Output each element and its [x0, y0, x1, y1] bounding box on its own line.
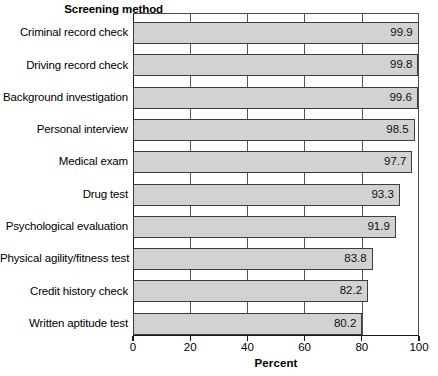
- bar-value-label: 99.9: [390, 27, 412, 39]
- bar: 91.9: [133, 216, 396, 238]
- x-axis-tick-label: 0: [130, 342, 136, 354]
- bar-row: 98.5: [133, 110, 419, 142]
- x-axis-tick-label: 100: [409, 342, 428, 354]
- bar-value-label: 99.8: [390, 60, 412, 72]
- y-axis-category-labels: Criminal record checkDriving record chec…: [0, 13, 128, 336]
- bar: 99.9: [133, 22, 419, 44]
- x-axis-title: Percent: [133, 357, 419, 369]
- bar-row: 83.8: [133, 239, 419, 271]
- bar-value-label: 83.8: [344, 253, 366, 265]
- bar: 83.8: [133, 248, 373, 270]
- category-label: Driving record check: [0, 60, 128, 72]
- bar: 99.8: [133, 54, 418, 76]
- bar: 80.2: [133, 313, 362, 335]
- category-label: Physical agility/fitness test: [0, 253, 128, 265]
- category-label: Background investigation: [0, 92, 128, 104]
- bar-row: 93.3: [133, 175, 419, 207]
- category-label: Medical exam: [0, 156, 128, 168]
- bar-row: 80.2: [133, 304, 419, 336]
- bar-value-label: 82.2: [340, 286, 362, 298]
- category-label: Criminal record check: [0, 27, 128, 39]
- category-label: Personal interview: [0, 124, 128, 136]
- bar-value-label: 99.6: [389, 92, 411, 104]
- bar-value-label: 93.3: [371, 189, 393, 201]
- category-label: Written aptitude test: [0, 318, 128, 330]
- bar-rows: 99.999.899.698.597.793.391.983.882.280.2: [133, 13, 419, 336]
- bar: 97.7: [133, 151, 412, 173]
- x-axis-tick-label: 60: [298, 342, 311, 354]
- bar-row: 82.2: [133, 271, 419, 303]
- bar-row: 99.6: [133, 78, 419, 110]
- bar-value-label: 97.7: [384, 156, 406, 168]
- category-label: Drug test: [0, 189, 128, 201]
- bar-row: 97.7: [133, 142, 419, 174]
- bar-value-label: 98.5: [386, 124, 408, 136]
- category-label: Psychological evaluation: [0, 221, 128, 233]
- x-axis-tick-label: 20: [184, 342, 197, 354]
- bar-value-label: 80.2: [334, 318, 356, 330]
- x-axis-tick-label: 40: [241, 342, 254, 354]
- bar-chart: Screening method Criminal record checkDr…: [0, 0, 438, 376]
- bar-row: 99.9: [133, 13, 419, 45]
- bar: 99.6: [133, 87, 418, 109]
- bar: 82.2: [133, 280, 368, 302]
- bar-value-label: 91.9: [367, 221, 389, 233]
- x-axis-tick-label: 80: [355, 342, 368, 354]
- bar: 98.5: [133, 119, 415, 141]
- bar: 93.3: [133, 184, 400, 206]
- bar-row: 99.8: [133, 45, 419, 77]
- bar-row: 91.9: [133, 207, 419, 239]
- category-label: Credit history check: [0, 286, 128, 298]
